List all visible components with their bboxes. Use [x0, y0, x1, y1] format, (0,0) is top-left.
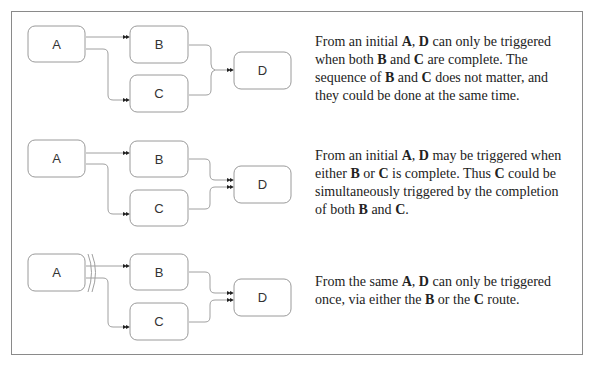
- arrowhead-icon: [227, 185, 234, 189]
- node-a: A: [28, 140, 85, 177]
- svg-text:A: A: [52, 37, 61, 52]
- node-a: A: [28, 26, 85, 62]
- text-run: or the: [434, 292, 473, 307]
- edge-a-c: [86, 49, 128, 100]
- text-run: and: [394, 70, 421, 85]
- emphasized-term: C: [414, 52, 424, 67]
- arrowhead-icon: [123, 212, 130, 216]
- svg-text:A: A: [52, 151, 61, 166]
- text-run: .: [405, 202, 409, 217]
- text-run: ,: [412, 148, 419, 163]
- emphasized-term: A: [402, 34, 412, 49]
- diagram-and-join: A B C D: [28, 26, 291, 112]
- arrowhead-icon: [227, 291, 234, 295]
- diagram-multi-merge: A B C D: [28, 140, 291, 226]
- arrowhead-icon: [123, 325, 130, 329]
- svg-text:B: B: [155, 265, 164, 280]
- description-exclusive-choice: From the same A, D can only be triggered…: [315, 273, 565, 309]
- svg-text:C: C: [154, 314, 163, 329]
- arrowhead-icon: [123, 98, 130, 102]
- svg-text:A: A: [52, 265, 61, 280]
- emphasized-term: B: [359, 202, 368, 217]
- text-run: From the same: [315, 274, 402, 289]
- svg-text:B: B: [155, 152, 164, 167]
- emphasized-term: B: [350, 166, 359, 181]
- svg-text:D: D: [258, 63, 267, 78]
- svg-text:C: C: [154, 201, 163, 216]
- node-a: A: [28, 254, 85, 291]
- edge-c-d: [189, 300, 232, 322]
- emphasized-term: C: [395, 202, 405, 217]
- edge-b-d: [189, 159, 232, 180]
- edge-bc-join: [189, 45, 215, 95]
- text-run: or: [360, 166, 379, 181]
- svg-text:D: D: [258, 177, 267, 192]
- text-run: From an initial: [315, 148, 402, 163]
- emphasized-term: B: [385, 70, 394, 85]
- description-and-join: From an initial A, D can only be trigger…: [315, 33, 565, 105]
- text-run: is complete. Thus: [389, 166, 495, 181]
- emphasized-term: B: [377, 52, 386, 67]
- emphasized-term: D: [419, 148, 429, 163]
- edge-a-c: [86, 278, 128, 327]
- text-run: and: [387, 52, 414, 67]
- text-run: ,: [412, 34, 419, 49]
- emphasized-term: C: [378, 166, 388, 181]
- xor-split-marker: [92, 254, 96, 292]
- node-c: C: [130, 303, 188, 340]
- node-c: C: [130, 190, 188, 226]
- emphasized-term: D: [419, 274, 429, 289]
- node-d: D: [234, 52, 291, 89]
- svg-text:C: C: [154, 86, 163, 101]
- arrowhead-icon: [123, 264, 130, 268]
- description-multi-merge: From an initial A, D may be triggered wh…: [315, 147, 565, 219]
- emphasized-term: D: [419, 34, 429, 49]
- text-run: and: [368, 202, 395, 217]
- arrowhead-icon: [123, 151, 130, 155]
- node-d: D: [234, 279, 291, 316]
- svg-text:D: D: [258, 290, 267, 305]
- text-run: From an initial: [315, 34, 402, 49]
- node-b: B: [130, 254, 188, 290]
- node-d: D: [234, 166, 291, 203]
- diagram-exclusive-choice: A B C D: [28, 254, 291, 340]
- emphasized-term: A: [402, 148, 412, 163]
- emphasized-term: B: [425, 292, 434, 307]
- svg-text:B: B: [155, 37, 164, 52]
- edge-a-c: [86, 164, 128, 214]
- emphasized-term: C: [422, 70, 432, 85]
- arrowhead-icon: [227, 68, 234, 72]
- node-b: B: [130, 26, 188, 63]
- xor-split-marker: [88, 254, 92, 292]
- arrowhead-icon: [227, 298, 234, 302]
- node-b: B: [130, 141, 188, 177]
- edge-c-d: [189, 187, 232, 209]
- text-run: ,: [412, 274, 419, 289]
- emphasized-term: C: [494, 166, 504, 181]
- edge-b-d: [189, 272, 232, 293]
- text-run: route.: [484, 292, 520, 307]
- emphasized-term: C: [474, 292, 484, 307]
- node-c: C: [130, 75, 188, 112]
- arrowhead-icon: [123, 35, 130, 39]
- emphasized-term: A: [402, 274, 412, 289]
- arrowhead-icon: [227, 178, 234, 182]
